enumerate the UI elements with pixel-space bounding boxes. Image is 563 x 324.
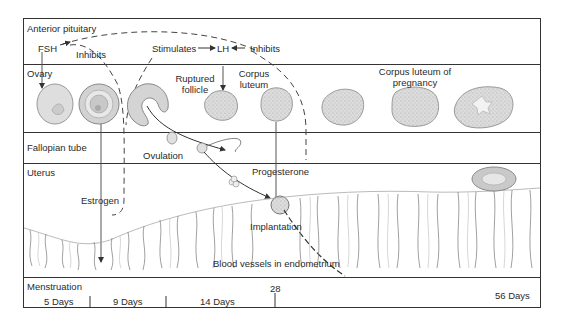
mature-follicle — [79, 84, 119, 124]
corpus-luteum-pregnancy — [392, 87, 439, 126]
label-clp-line1: Corpus luteum of — [370, 66, 460, 77]
corpus-luteum-pregnancy-late — [454, 87, 513, 128]
label-corpus-luteum: Corpus luteum — [234, 68, 274, 90]
label-clp-line2: pregnancy — [370, 77, 460, 88]
blastocyst — [271, 196, 289, 214]
timeline-day-28: 28 — [270, 283, 281, 294]
label-progesterone: Progesterone — [252, 166, 309, 177]
timeline-56-days: 56 Days — [495, 290, 530, 301]
label-inhibits-fsh: Inhibits — [76, 49, 106, 60]
label-corpus-luteum-line1: Corpus — [234, 68, 274, 79]
label-corpus-luteum-pregnancy: Corpus luteum of pregnancy — [370, 66, 460, 88]
row-label-menstruation: Menstruation — [27, 281, 82, 292]
label-ruptured-follicle: Ruptured follicle — [172, 73, 218, 95]
timeline-9-days: 9 Days — [113, 296, 143, 307]
label-ovulation: Ovulation — [143, 150, 183, 161]
embryonic-sac — [472, 167, 516, 191]
row-label-anterior-pituitary: Anterior pituitary — [27, 23, 96, 34]
inhibits-fsh-curve — [70, 45, 124, 215]
hormone-lh: LH — [217, 43, 229, 54]
label-stimulates: Stimulates — [152, 43, 196, 54]
label-ruptured-line2: follicle — [172, 84, 218, 95]
label-ruptured-line1: Ruptured — [172, 73, 218, 84]
hormone-fsh: FSH — [38, 43, 57, 54]
dividing-embryo — [229, 176, 239, 187]
label-estrogen: Estrogen — [81, 195, 119, 206]
rupturing-follicle — [127, 84, 168, 126]
label-blood-vessels: Blood vessels in endometrium — [213, 258, 340, 269]
ruptured-follicle — [205, 91, 238, 121]
row-label-fallopian-tube: Fallopian tube — [27, 142, 87, 153]
timeline-14-days: 14 Days — [200, 296, 235, 307]
row-label-ovary: Ovary — [27, 68, 52, 79]
row-label-uterus: Uterus — [27, 167, 55, 178]
label-inhibits-lh: Inhibits — [250, 43, 280, 54]
label-implantation: Implantation — [250, 221, 302, 232]
corpus-luteum — [261, 88, 292, 121]
corpus-luteum-2 — [322, 89, 364, 125]
label-corpus-luteum-line2: luteum — [234, 79, 274, 90]
timeline-5-days: 5 Days — [44, 296, 74, 307]
primary-follicle — [37, 84, 73, 124]
